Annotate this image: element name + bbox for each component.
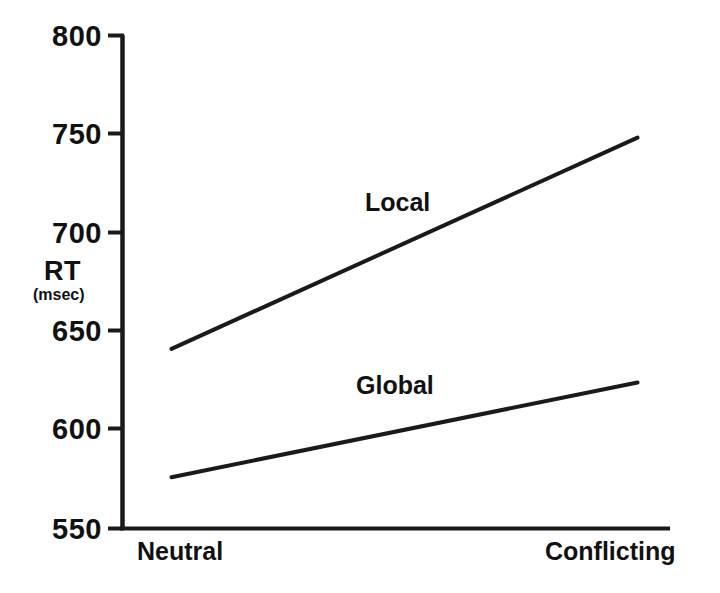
y-tick-label-650: 650 [38,317,102,346]
series-label-global: Global [356,373,434,398]
line-chart-canvas [0,0,720,593]
y-axis-unit-label: (msec) [33,287,85,303]
series-label-local: Local [365,190,430,215]
x-tick-label-neutral: Neutral [137,539,223,564]
y-axis-title: RT [44,258,81,285]
y-tick-label-750: 750 [38,120,102,149]
y-tick-label-700: 700 [38,219,102,248]
y-tick-label-600: 600 [38,415,102,444]
y-tick-label-550: 550 [38,515,102,544]
x-tick-label-conflicting: Conflicting [545,539,676,564]
y-tick-label-800: 800 [38,22,102,51]
chart-figure: 800 750 700 650 600 550 RT (msec) Local … [0,0,720,593]
series-line-local [172,138,638,349]
